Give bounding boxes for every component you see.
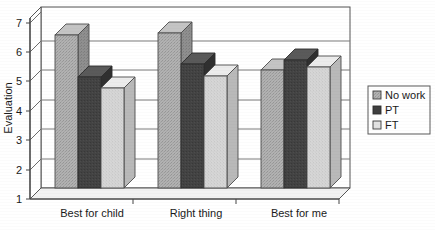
bar-chart: 7 6 5 4 3 2 1 Evaluation xyxy=(0,0,435,230)
x-label-best-for-child: Best for child xyxy=(60,207,124,219)
no-work-swatch-icon xyxy=(373,91,381,99)
pt-swatch-icon xyxy=(373,106,381,114)
y-tick-labels: 7 6 5 4 3 2 1 xyxy=(16,17,22,205)
y-axis-title: Evaluation xyxy=(2,82,14,133)
y-tick-6: 6 xyxy=(16,46,22,58)
y-tick-1: 1 xyxy=(16,193,22,205)
y-tick-7: 7 xyxy=(16,17,22,29)
legend-item-ft[interactable]: FT xyxy=(373,119,399,131)
legend-item-no-work[interactable]: No work xyxy=(373,89,426,101)
x-category-labels: Best for child Right thing Best for me xyxy=(60,207,327,219)
legend-label-pt: PT xyxy=(385,104,399,116)
bar-group-best-for-me xyxy=(261,49,341,188)
bar-best-for-child-ft xyxy=(101,77,135,188)
y-tick-2: 2 xyxy=(16,164,22,176)
x-label-best-for-me: Best for me xyxy=(271,207,327,219)
y-tick-3: 3 xyxy=(16,134,22,146)
bar-best-for-me-ft xyxy=(307,56,341,188)
legend-item-pt[interactable]: PT xyxy=(373,104,399,116)
bar-right-thing-ft xyxy=(204,65,238,188)
legend-label-ft: FT xyxy=(385,119,399,131)
x-axis xyxy=(30,199,339,204)
y-tick-4: 4 xyxy=(16,105,22,117)
x-label-right-thing: Right thing xyxy=(170,207,223,219)
plot-floor xyxy=(30,188,350,199)
chart-canvas: 7 6 5 4 3 2 1 Evaluation xyxy=(0,0,435,230)
plot-left-wall xyxy=(30,7,41,199)
legend-label-no-work: No work xyxy=(385,89,426,101)
ft-swatch-icon xyxy=(373,121,381,129)
y-axis xyxy=(26,18,30,199)
legend: No work PT FT xyxy=(368,86,430,134)
y-tick-5: 5 xyxy=(16,75,22,87)
